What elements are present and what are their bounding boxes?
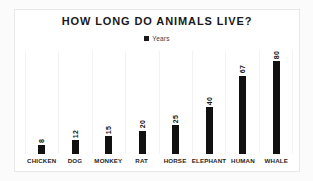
category-label-rat: RAT bbox=[125, 157, 158, 164]
category-label-monkey: MONKEY bbox=[92, 157, 125, 164]
bar-group: 8 12 15 20 25 bbox=[25, 51, 293, 154]
chart-card: HOW LONG DO ANIMALS LIVE? Years 8 bbox=[14, 9, 300, 172]
bar-monkey[interactable] bbox=[105, 136, 112, 154]
bar-slot-rat: 20 bbox=[126, 51, 160, 154]
category-label-dog: DOG bbox=[58, 157, 91, 164]
bar-value-label: 15 bbox=[105, 126, 112, 134]
category-label-chicken: CHICKEN bbox=[25, 157, 58, 164]
bar-value-label: 80 bbox=[273, 51, 280, 59]
bar-chicken[interactable] bbox=[38, 145, 45, 154]
category-label-human: HUMAN bbox=[226, 157, 259, 164]
bar-slot-horse: 25 bbox=[159, 51, 193, 154]
bar-rat[interactable] bbox=[139, 131, 146, 154]
bar-slot-chicken: 8 bbox=[25, 51, 59, 154]
bar-value-label: 20 bbox=[139, 120, 146, 128]
chart-title: HOW LONG DO ANIMALS LIVE? bbox=[15, 15, 299, 27]
category-label-elephant: ELEPHANT bbox=[192, 157, 227, 164]
bar-dog[interactable] bbox=[72, 140, 79, 154]
bar-value-label: 40 bbox=[206, 97, 213, 105]
bar-horse[interactable] bbox=[172, 125, 179, 154]
plot-area: 8 12 15 20 25 bbox=[25, 51, 293, 154]
bar-elephant[interactable] bbox=[206, 107, 213, 154]
bar-slot-human: 67 bbox=[226, 51, 260, 154]
bar-human[interactable] bbox=[239, 76, 246, 154]
bar-slot-dog: 12 bbox=[59, 51, 93, 154]
category-label-whale: WHALE bbox=[260, 157, 293, 164]
bar-slot-elephant: 40 bbox=[193, 51, 227, 154]
bar-slot-monkey: 15 bbox=[92, 51, 126, 154]
legend-label-years: Years bbox=[152, 35, 169, 42]
legend-swatch-icon bbox=[144, 36, 149, 41]
bar-value-label: 12 bbox=[72, 130, 79, 138]
bar-value-label: 8 bbox=[38, 139, 45, 143]
chart-legend: Years bbox=[15, 35, 299, 42]
category-label-horse: HORSE bbox=[158, 157, 191, 164]
bar-value-label: 25 bbox=[172, 115, 179, 123]
bar-value-label: 67 bbox=[239, 65, 246, 73]
category-axis: CHICKEN DOG MONKEY RAT HORSE ELEPHANT HU… bbox=[25, 157, 293, 164]
bar-slot-whale: 80 bbox=[260, 51, 294, 154]
bar-whale[interactable] bbox=[273, 61, 280, 154]
chart-page: HOW LONG DO ANIMALS LIVE? Years 8 bbox=[0, 0, 313, 181]
